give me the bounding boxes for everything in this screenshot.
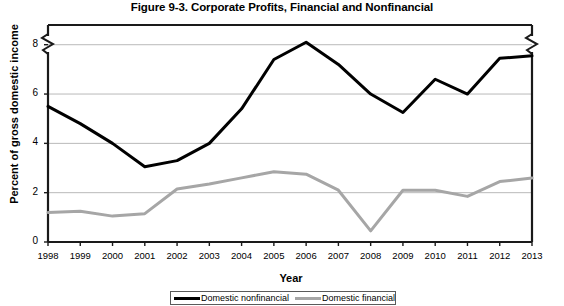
gridlines — [48, 45, 532, 193]
x-tick-label: 1999 — [63, 250, 97, 261]
x-tick-label: 2013 — [515, 250, 549, 261]
x-tick-label: 2000 — [96, 250, 130, 261]
x-tick-label: 2003 — [192, 250, 226, 261]
x-tick-label: 2011 — [450, 250, 484, 261]
y-tick-label: 2 — [18, 186, 38, 197]
x-axis-label: Year — [48, 272, 534, 284]
y-tick-label: 8 — [18, 38, 38, 49]
x-tick-label: 2004 — [225, 250, 259, 261]
x-tick-label: 2006 — [289, 250, 323, 261]
legend-label: Domestic financial — [322, 294, 395, 303]
chart-legend: Domestic nonfinancialDomestic financial — [170, 291, 396, 305]
axis-frame — [48, 25, 532, 242]
x-tick-label: 2010 — [418, 250, 452, 261]
x-tick-label: 2007 — [321, 250, 355, 261]
y-tick-label: 0 — [18, 235, 38, 246]
series-line — [48, 42, 532, 167]
x-tick-label: 2002 — [160, 250, 194, 261]
legend-color-swatch — [174, 297, 200, 300]
data-series-lines — [48, 42, 532, 231]
y-tick-label: 4 — [18, 136, 38, 147]
x-tick-label: 2012 — [483, 250, 517, 261]
series-line — [48, 172, 532, 231]
legend-label: Domestic nonfinancial — [201, 294, 289, 303]
axis-break-zigzag — [42, 34, 53, 54]
x-tick-label: 2008 — [354, 250, 388, 261]
x-tick-label: 1998 — [31, 250, 65, 261]
legend-color-swatch — [295, 297, 321, 300]
x-tick-label: 2005 — [257, 250, 291, 261]
legend-entry: Domestic nonfinancial — [174, 294, 289, 303]
y-tick-label: 6 — [18, 87, 38, 98]
x-tick-label: 2009 — [386, 250, 420, 261]
legend-entry: Domestic financial — [295, 294, 395, 303]
chart-figure: Figure 9-3. Corporate Profits, Financial… — [0, 0, 564, 306]
x-tick-label: 2001 — [128, 250, 162, 261]
axis-break-zigzag — [526, 34, 537, 54]
